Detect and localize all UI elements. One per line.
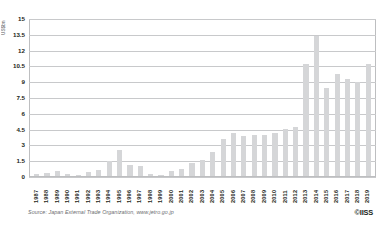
bar [293, 127, 298, 176]
bar-slot [290, 20, 300, 176]
x-tick-slot: 1995 [114, 179, 124, 203]
bar-slot [73, 20, 83, 176]
y-axis-tick-label: 9 [22, 79, 25, 85]
bar-slot [52, 20, 62, 176]
y-axis-tick-label: 12 [18, 47, 25, 53]
bar-slot [166, 20, 176, 176]
x-axis-tick-label: 2003 [200, 179, 206, 203]
x-tick-slot: 2015 [322, 179, 332, 203]
y-axis-tick-label: 4.5 [16, 126, 25, 132]
x-tick-slot: 2014 [311, 179, 321, 203]
source-note: Source: Japan External Trade Organizatio… [28, 209, 174, 215]
x-axis-tick-label: 1998 [148, 179, 154, 203]
y-axis-tick-label: 13.5 [13, 32, 25, 38]
bar [44, 173, 49, 176]
bar [138, 166, 143, 176]
bar [324, 88, 329, 176]
x-axis-tick-label: 1991 [75, 179, 81, 203]
x-tick-slot: 1994 [104, 179, 114, 203]
bar-slot [280, 20, 290, 176]
bar [345, 79, 350, 176]
x-axis-tick-label: 2008 [251, 179, 257, 203]
x-tick-slot: 2004 [208, 179, 218, 203]
x-axis-tick-label: 1997 [137, 179, 143, 203]
bar [169, 171, 174, 176]
bar [303, 64, 308, 176]
x-axis-tick-label: 2011 [283, 179, 289, 203]
bar-slot [208, 20, 218, 176]
x-tick-slot: 2007 [239, 179, 249, 203]
bar [117, 150, 122, 176]
x-tick-slot: 2006 [228, 179, 238, 203]
x-axis-tick-label: 1993 [96, 179, 102, 203]
bar [76, 175, 81, 176]
x-tick-slot: 2011 [280, 179, 290, 203]
bar-slot [197, 20, 207, 176]
bar [189, 163, 194, 176]
y-axis-tick-label: 0 [22, 174, 25, 180]
x-axis-tick-label: 2014 [314, 179, 320, 203]
bar [65, 174, 70, 176]
bar-slot [353, 20, 363, 176]
bar-slot [218, 20, 228, 176]
x-tick-slot: 1988 [42, 179, 52, 203]
bar [200, 160, 205, 176]
x-axis-tick-label: 2002 [189, 179, 195, 203]
x-axis-tick-label: 2019 [365, 179, 371, 203]
x-tick-slot: 1993 [94, 179, 104, 203]
plot-area [29, 19, 376, 177]
iiss-logo: ©IISS [355, 208, 373, 217]
bar-slot [259, 20, 269, 176]
x-axis-tick-label: 2010 [272, 179, 278, 203]
bar-slot [187, 20, 197, 176]
bar [366, 64, 371, 176]
x-tick-slot: 2002 [187, 179, 197, 203]
x-axis-tick-label: 1989 [55, 179, 61, 203]
bar [355, 82, 360, 176]
bar [158, 175, 163, 176]
x-tick-slot: 1997 [135, 179, 145, 203]
x-tick-slot: 1987 [32, 179, 42, 203]
bar [231, 133, 236, 176]
x-axis-tick-label: 1999 [158, 179, 164, 203]
bar-slot [270, 20, 280, 176]
x-tick-slot: 1999 [156, 179, 166, 203]
x-tick-slot: 1998 [145, 179, 155, 203]
bar-slot [125, 20, 135, 176]
y-axis-tick-label: 3 [22, 142, 25, 148]
x-tick-slot: 2005 [218, 179, 228, 203]
x-axis-tick-label: 2001 [179, 179, 185, 203]
x-axis-tick-label: 2017 [345, 179, 351, 203]
x-axis-tick-label: 1996 [127, 179, 133, 203]
bar-slot [301, 20, 311, 176]
x-tick-slot: 2009 [259, 179, 269, 203]
bar [179, 169, 184, 176]
bar-slot [332, 20, 342, 176]
x-axis-tick-label: 1988 [44, 179, 50, 203]
x-tick-slot: 2001 [177, 179, 187, 203]
x-tick-slot: 2010 [270, 179, 280, 203]
bar [283, 129, 288, 176]
y-axis-tick-labels: 01.534.567.5910.51213.515 [0, 19, 27, 177]
x-tick-slot: 2003 [197, 179, 207, 203]
x-tick-slot: 2008 [249, 179, 259, 203]
bar [272, 133, 277, 176]
bar-slot [363, 20, 373, 176]
bar-slot [114, 20, 124, 176]
bar-slot [104, 20, 114, 176]
x-axis-tick-label: 1995 [117, 179, 123, 203]
y-axis-tick-label: 6 [22, 111, 25, 117]
bar-slot [32, 20, 42, 176]
x-axis-tick-label: 1987 [34, 179, 40, 203]
bar [107, 161, 112, 176]
chart-figure: US$bn 01.534.567.5910.51213.515 19871988… [0, 0, 379, 228]
x-tick-slot: 2019 [363, 179, 373, 203]
bar-slot [228, 20, 238, 176]
bar [148, 174, 153, 176]
x-tick-slot: 1996 [125, 179, 135, 203]
bar [96, 170, 101, 176]
x-axis-tick-label: 2000 [169, 179, 175, 203]
x-axis-tick-label: 2018 [355, 179, 361, 203]
bar [221, 139, 226, 176]
x-tick-slot: 1992 [83, 179, 93, 203]
